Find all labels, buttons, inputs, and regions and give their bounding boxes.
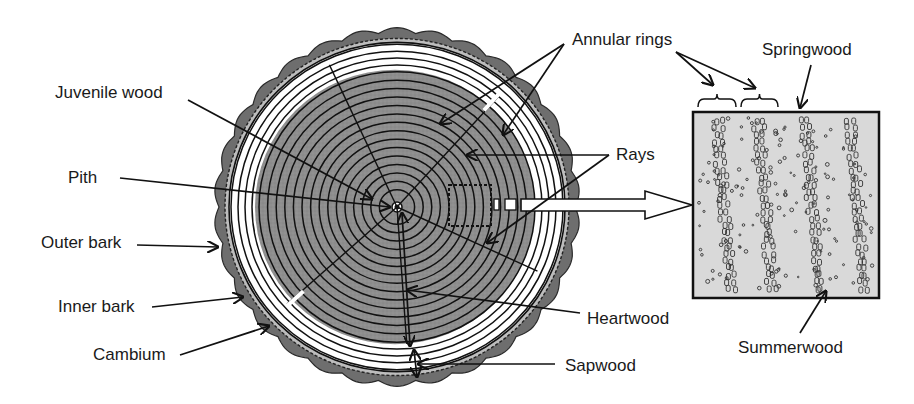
diagram-canvas: Juvenile wood Pith Outer bark Inner bark…	[0, 0, 914, 404]
outer-bark-pointer	[137, 245, 218, 247]
label-outer-bark: Outer bark	[41, 233, 122, 252]
wood-cross-section-diagram: Juvenile wood Pith Outer bark Inner bark…	[0, 0, 914, 404]
magnified-detail	[693, 94, 879, 298]
label-summerwood: Summerwood	[738, 338, 843, 357]
label-pith: Pith	[68, 168, 97, 187]
label-rays: Rays	[616, 145, 655, 164]
ring-bracket	[698, 94, 736, 107]
zoom-step-medium	[505, 199, 516, 210]
annular-rings-right-a	[676, 52, 713, 85]
label-cambium: Cambium	[93, 345, 166, 364]
label-sapwood: Sapwood	[565, 356, 636, 375]
label-springwood: Springwood	[762, 40, 852, 59]
label-heartwood: Heartwood	[587, 309, 669, 328]
label-inner-bark: Inner bark	[58, 297, 135, 316]
label-annular-rings: Annular rings	[572, 30, 672, 49]
zoom-step-small	[494, 199, 499, 210]
label-juvenile-wood: Juvenile wood	[55, 83, 163, 102]
inner-bark-pointer	[152, 297, 243, 307]
springwood-pointer	[800, 65, 811, 108]
ring-bracket	[741, 94, 778, 107]
annular-rings-right-b	[676, 52, 755, 88]
cambium-pointer	[180, 326, 269, 355]
trunk-cross-section	[215, 28, 692, 387]
